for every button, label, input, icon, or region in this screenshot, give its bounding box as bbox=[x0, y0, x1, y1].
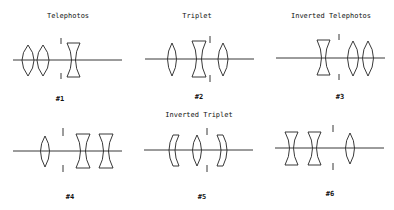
biconcave-lens-icon bbox=[317, 40, 330, 75]
biconvex-lens-icon bbox=[22, 45, 34, 76]
biconvex-lens-icon bbox=[363, 41, 374, 76]
panel-6 bbox=[275, 125, 384, 170]
panel-4 bbox=[13, 128, 122, 172]
biconvex-lens-icon bbox=[37, 45, 49, 76]
biconvex-lens-icon bbox=[193, 135, 202, 166]
panel-5-inverted-triplet bbox=[144, 128, 253, 172]
biconvex-lens-icon bbox=[346, 133, 355, 164]
biconcave-lens-icon bbox=[308, 132, 321, 165]
meniscus-lens-icon bbox=[169, 135, 179, 166]
meniscus-lens-icon bbox=[217, 135, 227, 166]
panel-3-inverted-telephotos bbox=[276, 34, 385, 80]
panel-1-telephotos bbox=[13, 38, 122, 79]
biconvex-lens-icon bbox=[348, 41, 359, 76]
biconvex-lens-icon bbox=[41, 136, 50, 167]
biconcave-lens-icon bbox=[285, 132, 298, 165]
biconvex-lens-icon bbox=[168, 43, 177, 76]
panel-2-triplet bbox=[145, 36, 254, 82]
biconvex-lens-icon bbox=[218, 43, 228, 76]
lens-diagrams bbox=[0, 0, 394, 210]
